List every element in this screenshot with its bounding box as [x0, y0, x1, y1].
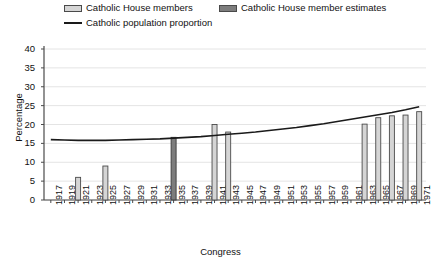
bar	[403, 115, 408, 200]
bar	[226, 132, 231, 200]
bar	[103, 166, 108, 200]
chart-container: Catholic House members Catholic House me…	[0, 0, 441, 269]
bar	[171, 137, 176, 200]
bar	[376, 118, 381, 200]
plot-area	[0, 0, 441, 269]
bar	[417, 112, 422, 200]
bar	[362, 124, 367, 200]
bar	[76, 177, 81, 200]
bar	[389, 116, 394, 200]
